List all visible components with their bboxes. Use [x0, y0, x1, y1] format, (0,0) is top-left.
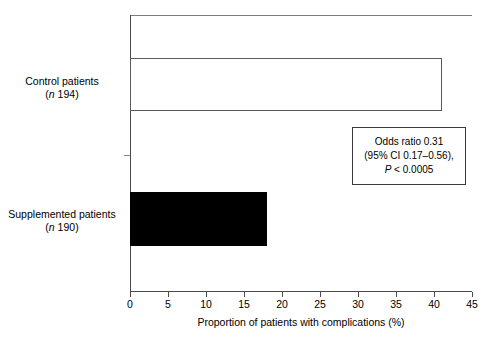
x-axis-tick-30 [358, 292, 359, 297]
p-value-rest: < 0.0005 [394, 164, 433, 175]
x-axis-tick-label-10: 10 [191, 298, 221, 310]
annotation-line-confidence-interval: (95% CI 0.17–0.56), [364, 149, 454, 163]
bar-supplemented-patients [130, 192, 267, 246]
x-axis-tick-label-30: 30 [343, 298, 373, 310]
x-axis-tick-label-35: 35 [381, 298, 411, 310]
x-axis-tick-20 [282, 292, 283, 297]
x-axis-tick-0 [130, 292, 131, 297]
n-symbol: n [49, 88, 55, 100]
x-axis-tick-label-5: 5 [153, 298, 183, 310]
x-axis-tick-label-40: 40 [419, 298, 449, 310]
x-axis-tick-40 [434, 292, 435, 297]
category-label-supplemented-line1: Supplemented patients [0, 208, 124, 221]
x-axis-tick-label-25: 25 [305, 298, 335, 310]
x-axis-tick-label-0: 0 [115, 298, 145, 310]
x-axis-tick-label-20: 20 [267, 298, 297, 310]
x-axis-tick-label-15: 15 [229, 298, 259, 310]
x-axis-tick-10 [206, 292, 207, 297]
y-axis-tick-mark [124, 155, 130, 156]
category-label-control: Control patients (n 194) [0, 75, 124, 101]
x-axis-tick-35 [396, 292, 397, 297]
category-label-supplemented-line2: (n 190) [0, 221, 124, 234]
n-value: 190 [58, 221, 76, 233]
x-axis-tick-15 [244, 292, 245, 297]
p-symbol: P [385, 164, 392, 175]
category-label-control-line1: Control patients [0, 75, 124, 88]
n-symbol: n [49, 221, 55, 233]
category-label-control-line2: (n 194) [0, 88, 124, 101]
n-value: 194 [58, 88, 76, 100]
annotation-line-p-value: P < 0.0005 [385, 163, 434, 177]
x-axis-tick-5 [168, 292, 169, 297]
x-axis-tick-label-45: 45 [457, 298, 486, 310]
category-label-supplemented: Supplemented patients (n 190) [0, 208, 124, 234]
x-axis-title: Proportion of patients with complication… [130, 316, 472, 329]
x-axis-tick-25 [320, 292, 321, 297]
figure-root: Control patients (n 194) Supplemented pa… [0, 0, 486, 339]
annotation-line-odds-ratio: Odds ratio 0.31 [375, 135, 443, 149]
odds-ratio-annotation-box: Odds ratio 0.31 (95% CI 0.17–0.56), P < … [352, 127, 466, 185]
x-axis-tick-45 [472, 292, 473, 297]
plot-top-border [130, 15, 472, 16]
y-axis-line [130, 15, 131, 292]
bar-control-patients [130, 58, 442, 111]
x-axis-line [130, 291, 472, 292]
